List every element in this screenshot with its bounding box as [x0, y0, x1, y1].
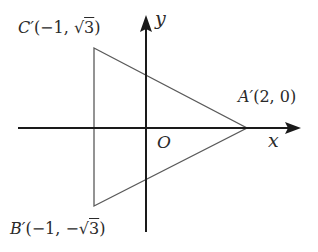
- point-name-b: B′: [10, 219, 25, 238]
- point-coords-c-close: ): [94, 18, 100, 37]
- point-coords-c-radicand: 3: [84, 18, 94, 37]
- point-name-a: A′: [238, 87, 253, 106]
- point-coords-b-radicand: 3: [89, 219, 99, 238]
- point-name-c: C′: [18, 18, 34, 37]
- point-coords-b-open: (−1, −: [25, 219, 78, 238]
- point-coords-a: (2, 0): [253, 87, 296, 106]
- y-axis-label: y: [155, 9, 166, 28]
- radical-icon: √: [79, 219, 89, 238]
- point-label-a: A′(2, 0): [238, 89, 296, 105]
- point-coords-c-open: (−1,: [34, 18, 74, 37]
- coordinate-diagram: [0, 0, 318, 252]
- x-axis-label: x: [268, 131, 279, 150]
- point-label-b: B′(−1, −√3): [10, 221, 105, 237]
- origin-label: O: [157, 134, 171, 151]
- point-label-c: C′(−1, √3): [18, 20, 101, 36]
- point-coords-b-close: ): [99, 219, 105, 238]
- radical-icon: √: [74, 18, 84, 37]
